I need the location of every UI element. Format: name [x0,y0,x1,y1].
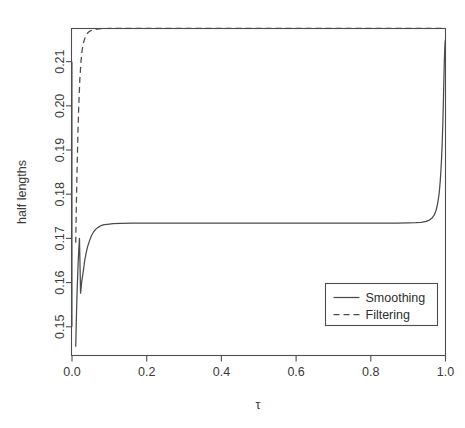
y-tick-label: 0.21 [53,49,67,73]
x-tick-label: 0.2 [138,365,155,379]
x-axis-title: τ [256,398,261,412]
y-tick-label: 0.19 [53,138,67,162]
y-tick-label: 0.20 [53,94,67,118]
legend-label-smoothing: Smoothing [366,291,426,305]
y-tick-label: 0.17 [53,226,67,250]
y-tick-label: 0.15 [53,315,67,339]
y-tick-label: 0.18 [53,182,67,206]
x-tick-label: 1.0 [437,365,454,379]
chart-figure: 0.150.160.170.180.190.200.21 0.00.20.40.… [0,0,465,428]
legend-label-filtering: Filtering [366,308,411,322]
x-tick-label: 0.4 [213,365,230,379]
chart-legend[interactable]: SmoothingFiltering [326,284,438,326]
y-axis-title: half lengths [15,160,29,224]
x-tick-label: 0.0 [63,365,80,379]
x-tick-label: 0.8 [362,365,379,379]
x-tick-label: 0.6 [287,365,304,379]
line-chart: 0.150.160.170.180.190.200.21 0.00.20.40.… [0,0,465,428]
y-tick-label: 0.16 [53,270,67,294]
